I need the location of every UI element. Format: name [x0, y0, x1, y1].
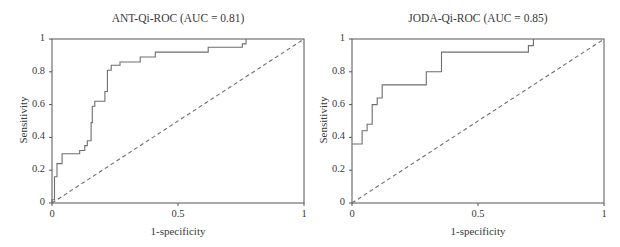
chart-title: ANT-Qi-ROC (AUC = 0.81): [52, 12, 304, 24]
roc-curve: [352, 39, 533, 144]
y-tick-label: 0.2: [317, 163, 345, 174]
chart-title: JODA-Qi-ROC (AUC = 0.85): [352, 12, 604, 24]
x-axis-label: 1-specificity: [352, 225, 604, 237]
y-tick-label: 0.4: [317, 130, 345, 141]
y-tick-label: 0.2: [17, 163, 45, 174]
x-tick-label: 1: [589, 208, 619, 219]
y-tick-label: 1: [17, 32, 45, 43]
y-tick-label: 1: [317, 32, 345, 43]
x-tick-label: 0: [337, 208, 367, 219]
joda-qi-roc-chart: JODA-Qi-ROC (AUC = 0.85) 1-specificity S…: [300, 0, 610, 247]
y-tick-label: 0.6: [17, 98, 45, 109]
y-tick-label: 0.8: [17, 65, 45, 76]
x-tick-label: 0.5: [163, 208, 193, 219]
y-tick-label: 0: [17, 196, 45, 207]
y-axis-label: Sensitivity: [17, 80, 29, 160]
x-axis-label: 1-specificity: [52, 225, 304, 237]
ant-qi-roc-chart: ANT-Qi-ROC (AUC = 0.81) 1-specificity Se…: [0, 0, 310, 247]
y-tick-label: 0.4: [17, 130, 45, 141]
y-tick-label: 0: [317, 196, 345, 207]
x-tick-label: 0: [37, 208, 67, 219]
x-tick-label: 0.5: [463, 208, 493, 219]
reference-diagonal-line: [52, 39, 304, 203]
y-tick-label: 0.6: [317, 98, 345, 109]
roc-curve: [52, 39, 246, 203]
y-axis-label: Sensitivity: [317, 80, 329, 160]
reference-diagonal-line: [352, 39, 604, 203]
y-tick-label: 0.8: [317, 65, 345, 76]
